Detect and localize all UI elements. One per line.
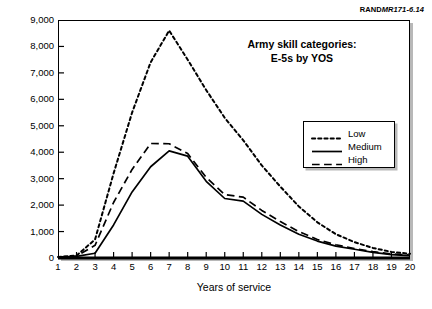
legend-item-high: High	[311, 153, 394, 166]
legend-item-medium: Medium	[311, 140, 394, 153]
legend-label: Low	[348, 128, 365, 139]
x-axis-title: Years of service	[58, 281, 410, 293]
legend-label: High	[348, 154, 368, 165]
legend-swatch-high	[311, 155, 343, 164]
legend: LowMediumHigh	[303, 121, 395, 168]
legend-label: Medium	[348, 141, 382, 152]
chart-title-line-1: Army skill categories:	[212, 38, 392, 52]
legend-swatch-low	[311, 129, 343, 138]
legend-swatch-medium	[311, 142, 343, 151]
chart-figure: RANDMR171-6.14 01,0002,0003,0004,0005,00…	[0, 0, 432, 309]
chart-title-line-2: E-5s by YOS	[212, 52, 392, 66]
chart-title: Army skill categories: E-5s by YOS	[212, 38, 392, 65]
legend-item-low: Low	[311, 127, 394, 140]
